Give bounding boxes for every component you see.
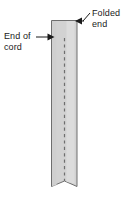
folded-cord-diagram [0,0,136,200]
end-of-cord-label: End of cord [4,31,31,53]
paper-strip-left-shade [52,21,57,186]
paper-strip-highlight [67,21,75,184]
folded-end-label: Folded end [92,8,120,30]
folded-end-leader-line [83,13,90,21]
folded-end-label-line1: Folded [92,8,120,19]
end-of-cord-label-line2: cord [4,42,31,53]
end-of-cord-label-line1: End of [4,31,31,42]
folded-end-label-line2: end [92,19,120,30]
